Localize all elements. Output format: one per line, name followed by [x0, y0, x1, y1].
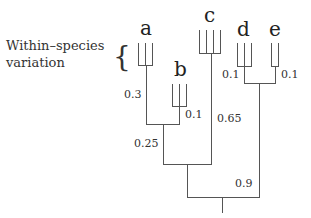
phylogenetic-tree: Within–species variation { a 0.3 b 0.1 0… [0, 0, 311, 218]
branch-length-b: 0.1 [185, 108, 203, 121]
taxon-d: d 0.1 [222, 17, 252, 84]
branch-length-c: 0.65 [217, 112, 242, 125]
taxon-b: b 0.1 [172, 57, 203, 125]
annotation-line1: Within–species [6, 38, 104, 53]
annotation-brace: { [113, 40, 131, 73]
taxon-label-a: a [140, 16, 152, 40]
branch-length-de: 0.9 [235, 177, 253, 190]
taxon-c: c 0.65 [199, 3, 242, 165]
taxon-label-d: d [237, 17, 250, 41]
branch-length-d: 0.1 [222, 68, 240, 81]
annotation-line2: variation [5, 55, 65, 70]
taxon-e: e 0.1 [269, 17, 299, 84]
taxon-label-c: c [204, 3, 215, 27]
taxon-label-b: b [174, 57, 187, 81]
branch-length-ab: 0.25 [134, 137, 159, 150]
taxon-label-e: e [269, 17, 281, 41]
branch-length-a: 0.3 [124, 88, 142, 101]
branch-length-e: 0.1 [281, 68, 299, 81]
